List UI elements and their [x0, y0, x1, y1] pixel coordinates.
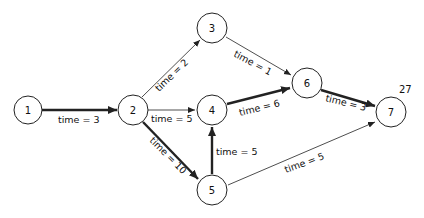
edge-4-6: time = 6	[227, 88, 290, 118]
node-2: 2	[118, 95, 148, 125]
edge-5-4: time = 5	[212, 127, 258, 174]
svg-text:7: 7	[388, 107, 394, 118]
network-diagram: time = 3 time = 2 time = 5 time = 10 tim…	[0, 0, 424, 218]
svg-text:6: 6	[304, 78, 310, 89]
edge-6-7: time = 3	[321, 90, 375, 113]
edge-2-3: time = 2	[142, 40, 200, 97]
node-1: 1	[14, 96, 42, 124]
edge-2-4: time = 5	[148, 110, 195, 124]
node-6: 6	[292, 68, 322, 98]
svg-text:1: 1	[25, 105, 31, 116]
edge-label-5-7: time = 5	[283, 150, 326, 175]
node-5: 5	[197, 175, 227, 205]
edge-2-5: time = 10	[143, 122, 198, 179]
edge-3-6: time = 1	[226, 37, 291, 77]
edge-label-6-7: time = 3	[325, 92, 368, 113]
finish-time-label: 27	[399, 84, 412, 95]
edge-label-2-3: time = 2	[153, 57, 191, 94]
node-3: 3	[197, 13, 227, 43]
edge-label-1-2: time = 3	[58, 114, 100, 125]
svg-text:2: 2	[130, 105, 136, 116]
edge-label-2-5: time = 10	[148, 135, 189, 176]
svg-text:5: 5	[209, 185, 215, 196]
svg-text:3: 3	[209, 23, 215, 34]
edge-label-5-4: time = 5	[216, 146, 258, 157]
node-7: 7	[376, 97, 406, 127]
svg-text:4: 4	[209, 105, 215, 116]
edge-1-2: time = 3	[42, 110, 117, 125]
edge-label-2-4: time = 5	[151, 113, 193, 124]
node-4: 4	[197, 95, 227, 125]
